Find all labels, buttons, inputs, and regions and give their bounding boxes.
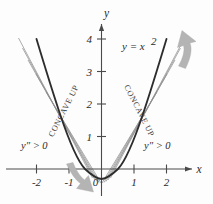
second-derivative-label-left: y″ > 0 xyxy=(20,140,48,151)
curve-equation-text: y = x xyxy=(121,40,145,52)
slope-increasing-arrow-right xyxy=(178,31,197,69)
x-tick-label-1: 1 xyxy=(131,176,137,188)
y-tick-label-1: 1 xyxy=(87,131,93,143)
concavity-figure: -2 -1 1 2 0 1 2 3 4 x y y = x 2 CONCAVE … xyxy=(0,0,213,204)
x-axis-label: x xyxy=(195,163,202,175)
y-tick-label-4: 4 xyxy=(87,33,93,45)
second-derivative-label-right: y″ > 0 xyxy=(143,140,171,151)
origin-label: 0 xyxy=(93,176,99,188)
y-axis-label: y xyxy=(103,7,110,20)
x-tick-label-neg2: -2 xyxy=(32,176,42,188)
y-tick-label-2: 2 xyxy=(87,98,93,110)
x-tick-label-neg1: -1 xyxy=(64,176,73,188)
arrow-shape xyxy=(178,31,197,69)
y-axis-arrowhead xyxy=(99,24,104,31)
curve-equation-label: y = x 2 xyxy=(121,35,157,52)
x-axis-arrowhead xyxy=(185,166,192,171)
y-tick-label-3: 3 xyxy=(86,66,93,78)
curve-equation-exponent: 2 xyxy=(151,35,157,47)
x-tick-label-2: 2 xyxy=(164,176,170,188)
figure-canvas: -2 -1 1 2 0 1 2 3 4 x y y = x 2 CONCAVE … xyxy=(0,0,213,204)
